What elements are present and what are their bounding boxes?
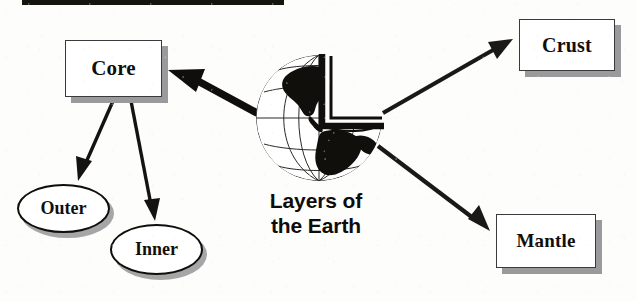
label-ellipse-inner-text: Inner xyxy=(135,239,178,260)
diagram-title: Layers of the Earth xyxy=(232,188,400,238)
label-box-mantle-text: Mantle xyxy=(516,230,575,252)
label-box-crust[interactable]: Crust xyxy=(519,19,615,71)
label-ellipse-inner[interactable]: Inner xyxy=(110,224,203,275)
diagram-title-line-2: the Earth xyxy=(232,213,400,238)
label-box-core[interactable]: Core xyxy=(65,40,162,97)
label-box-core-text: Core xyxy=(91,56,136,81)
diagram-title-line-1: Layers of xyxy=(232,188,400,213)
cutaway-earth-globe xyxy=(252,48,392,190)
arrow-core-to-inner-left xyxy=(76,101,113,181)
top-black-bar xyxy=(22,0,284,5)
label-box-mantle[interactable]: Mantle xyxy=(496,214,596,268)
diagram-canvas: Core Crust Mantle Outer Inner Layers of … xyxy=(0,0,637,301)
label-ellipse-outer-text: Outer xyxy=(41,198,87,219)
label-ellipse-outer[interactable]: Outer xyxy=(17,184,110,233)
label-box-crust-text: Crust xyxy=(542,34,592,57)
arrow-globe-to-crust xyxy=(383,39,513,113)
arrow-core-to-inner-right xyxy=(131,101,160,221)
